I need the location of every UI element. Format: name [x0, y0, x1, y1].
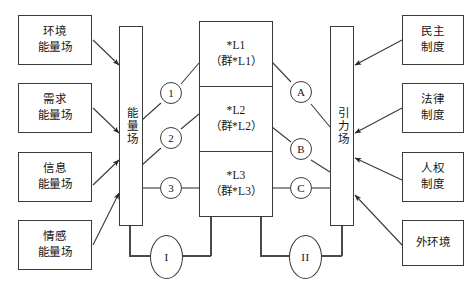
input-box-democracy[interactable]: 民主 制度 [402, 15, 464, 65]
input-box-human-rights-line-1: 人权 [421, 161, 444, 177]
line-circle-1-to-l1 [181, 63, 199, 84]
layer-cell-l3-line-1: *L3 [226, 168, 245, 184]
layer-cell-l1-line-2: （群*L1） [210, 54, 263, 70]
input-box-emotion-line-1: 情感 [43, 229, 66, 245]
layer-cell-l2[interactable]: *L2 （群*L2） [200, 87, 272, 152]
gravity-field-bar-label: 引力场 [335, 107, 348, 146]
arrow-emotion-to-energy-field [93, 193, 119, 245]
connector-circle-2-label: 2 [168, 132, 174, 144]
input-box-demand-line-1: 需求 [43, 92, 66, 108]
layer-cell-l1[interactable]: *L1 （群*L1） [200, 22, 272, 87]
line-energy-field-to-circle-1 [142, 103, 161, 120]
line-circle-a-to-gravity-field [311, 104, 330, 127]
line-energy-field-to-circle-2 [142, 148, 161, 165]
input-box-democracy-line-2: 制度 [421, 40, 444, 56]
energy-field-bar[interactable]: 能量场 [119, 26, 143, 226]
layer-cell-l3-line-2: （群*L3） [210, 184, 263, 200]
input-box-democracy-line-1: 民主 [421, 24, 444, 40]
input-box-external-environment[interactable]: 外环境 [402, 220, 464, 266]
arrow-rights-to-gravity-field [355, 158, 402, 180]
arrow-info-to-energy-field [93, 160, 119, 185]
input-box-external-environment-line-1: 外环境 [416, 235, 451, 251]
connector-circle-2[interactable]: 2 [160, 127, 182, 149]
input-box-information-line-2: 能量场 [38, 177, 73, 193]
layer-cell-l2-line-1: *L2 [226, 103, 245, 119]
connector-circle-1-label: 1 [168, 87, 174, 99]
arrow-democracy-to-gravity-field [355, 40, 402, 65]
energy-field-bar-label: 能量场 [124, 107, 137, 146]
line-circle-2-to-l2 [181, 114, 199, 129]
input-box-environment-line-2: 能量场 [38, 40, 73, 56]
connector-circle-c[interactable]: C [290, 177, 312, 199]
connector-circle-3[interactable]: 3 [160, 177, 182, 199]
layer-stack: *L1 （群*L1） *L2 （群*L2） *L3 （群*L3） [199, 21, 273, 217]
layer-cell-l1-line-1: *L1 [226, 38, 245, 54]
line-circle-b-to-gravity-field [311, 160, 330, 172]
connector-circle-a[interactable]: A [290, 81, 312, 103]
gravity-field-bar[interactable]: 引力场 [330, 26, 354, 226]
feedback-loop-2-node[interactable]: II [289, 235, 322, 279]
connector-circle-3-label: 3 [168, 182, 174, 194]
connector-circle-b[interactable]: B [290, 138, 312, 160]
input-box-information[interactable]: 信息 能量场 [18, 152, 92, 202]
input-box-emotion[interactable]: 情感 能量场 [18, 220, 92, 270]
input-box-human-rights[interactable]: 人权 制度 [402, 152, 464, 202]
input-box-demand-line-2: 能量场 [38, 108, 73, 124]
arrow-external-to-gravity-field [355, 195, 402, 245]
feedback-loop-1-label: I [164, 251, 168, 263]
input-box-demand[interactable]: 需求 能量场 [18, 83, 92, 133]
input-box-law[interactable]: 法律 制度 [402, 83, 464, 133]
feedback-loop-2-label: II [301, 251, 309, 263]
input-box-emotion-line-2: 能量场 [38, 245, 73, 261]
layer-cell-l3[interactable]: *L3 （群*L3） [200, 152, 272, 216]
connector-circle-a-label: A [297, 86, 305, 98]
arrow-demand-to-energy-field [93, 108, 119, 133]
input-box-human-rights-line-2: 制度 [421, 177, 444, 193]
input-box-environment-line-1: 环境 [43, 24, 66, 40]
input-box-law-line-2: 制度 [421, 108, 444, 124]
line-l2-to-circle-b [272, 127, 291, 142]
connector-circle-1[interactable]: 1 [160, 82, 182, 104]
diagram-canvas: 环境 能量场 需求 能量场 信息 能量场 情感 能量场 能量场 1 2 3 *L… [0, 0, 472, 298]
feedback-loop-1-node[interactable]: I [150, 235, 183, 279]
layer-cell-l2-line-2: （群*L2） [210, 119, 263, 135]
input-box-law-line-1: 法律 [421, 92, 444, 108]
connector-circle-c-label: C [297, 182, 304, 194]
line-l1-to-circle-a [272, 62, 291, 82]
connector-circle-b-label: B [297, 143, 304, 155]
input-box-environment[interactable]: 环境 能量场 [18, 15, 92, 65]
input-box-information-line-1: 信息 [43, 161, 66, 177]
arrow-law-to-gravity-field [355, 108, 402, 133]
arrow-env-to-energy-field [93, 40, 119, 65]
